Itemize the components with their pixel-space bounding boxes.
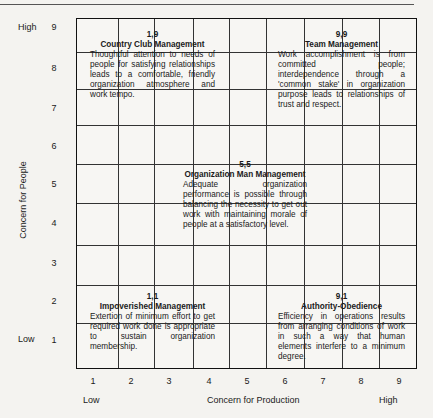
style-name: Team Management: [278, 40, 405, 50]
y-tick-8: 8: [47, 63, 61, 73]
y-axis-title: Concern for People: [18, 161, 28, 239]
x-axis-title: Concern for Production: [207, 395, 300, 405]
style-description: Work accomplishment is from committed pe…: [278, 50, 405, 110]
style-name: Authority-Obedience: [278, 302, 405, 312]
style-description: Efficiency in operations results from ar…: [278, 312, 405, 362]
style-description: Thoughtful attention to needs of people …: [90, 50, 215, 100]
grid-hline: [77, 285, 416, 286]
y-tick-6: 6: [47, 141, 61, 151]
x-tick-6: 6: [278, 376, 292, 386]
grid-hline: [77, 245, 416, 246]
y-axis-low-label: Low: [18, 334, 35, 344]
y-axis-high-label: High: [18, 22, 37, 32]
style-coord: 1,1: [90, 292, 215, 302]
x-tick-3: 3: [162, 376, 176, 386]
style-coord: 5,5: [183, 160, 307, 170]
y-tick-2: 2: [47, 296, 61, 306]
style-5-5-organization-man: 5,5 Organization Man Management Adequate…: [183, 160, 307, 230]
y-tick-1: 1: [47, 335, 61, 345]
x-tick-1: 1: [86, 376, 100, 386]
style-name: Organization Man Management: [183, 170, 307, 180]
y-tick-9: 9: [47, 22, 61, 32]
style-9-1-authority-obedience: 9,1 Authority-Obedience Efficiency in op…: [278, 292, 405, 362]
y-tick-5: 5: [47, 179, 61, 189]
style-name: Impoverished Management: [90, 302, 215, 312]
x-tick-2: 2: [124, 376, 138, 386]
x-tick-4: 4: [202, 376, 216, 386]
style-name: Country Club Management: [90, 40, 215, 50]
style-1-9-country-club: 1,9 Country Club Management Thoughtful a…: [90, 30, 215, 100]
x-tick-5: 5: [240, 376, 254, 386]
style-coord: 9,1: [278, 292, 405, 302]
top-rule: [0, 4, 414, 5]
y-tick-7: 7: [47, 103, 61, 113]
y-tick-3: 3: [47, 258, 61, 268]
x-axis-high-label: High: [379, 395, 398, 405]
x-tick-8: 8: [354, 376, 368, 386]
x-tick-9: 9: [392, 376, 406, 386]
style-description: Extertion of minimum effort to get requi…: [90, 312, 215, 352]
y-tick-4: 4: [47, 218, 61, 228]
style-9-9-team: 9,9 Team Management Work accomplishment …: [278, 30, 405, 110]
grid-hline: [77, 125, 416, 126]
style-coord: 9,9: [278, 30, 405, 40]
style-1-1-impoverished: 1,1 Impoverished Management Extertion of…: [90, 292, 215, 352]
x-axis-low-label: Low: [83, 395, 100, 405]
style-coord: 1,9: [90, 30, 215, 40]
x-tick-7: 7: [316, 376, 330, 386]
style-description: Adequate organization performance is pos…: [183, 180, 307, 230]
